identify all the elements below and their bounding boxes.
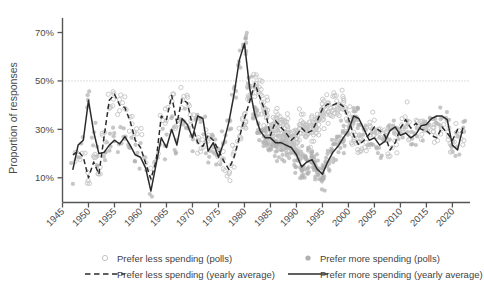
scatter-point	[204, 151, 208, 155]
scatter-point	[300, 144, 304, 148]
scatter-point	[336, 150, 340, 154]
scatter-point	[277, 155, 281, 159]
scatter-point	[338, 146, 342, 150]
scatter-point	[244, 34, 248, 38]
legend-label-less-polls: Prefer less spending (polls)	[117, 253, 232, 264]
scatter-point	[234, 96, 238, 100]
scatter-point	[91, 143, 95, 147]
scatter-point	[281, 153, 285, 157]
scatter-point	[198, 120, 202, 124]
scatter-point	[315, 152, 319, 156]
proportion-of-responses-chart: Proportion of responses 10%30%50%70% 194…	[0, 0, 484, 290]
scatter-point	[203, 115, 207, 119]
scatter-point	[330, 138, 334, 142]
scatter-point	[191, 149, 195, 153]
scatter-point	[133, 143, 137, 147]
scatter-point	[107, 149, 111, 153]
scatter-point	[377, 146, 381, 150]
legend-marker-more-polls	[305, 255, 310, 260]
scatter-point	[161, 127, 165, 131]
scatter-point	[306, 172, 310, 176]
scatter-point	[103, 158, 107, 162]
y-axis-title: Proportion of responses	[7, 62, 19, 173]
scatter-point	[313, 175, 317, 179]
y-tick-label: 50%	[35, 75, 55, 86]
scatter-point	[310, 154, 314, 158]
scatter-point	[321, 175, 325, 179]
scatter-point	[174, 150, 178, 154]
scatter-point	[169, 116, 173, 120]
scatter-point	[334, 158, 338, 162]
scatter-point	[401, 135, 405, 139]
scatter-point	[112, 134, 116, 138]
scatter-point	[282, 159, 286, 163]
scatter-point	[273, 154, 277, 158]
scatter-point	[87, 89, 91, 93]
scatter-point	[324, 156, 328, 160]
scatter-point	[387, 123, 391, 127]
scatter-point	[148, 192, 152, 196]
scatter-point	[163, 157, 167, 161]
legend-label-less-average: Prefer less spending (yearly average)	[117, 269, 275, 280]
scatter-point	[116, 150, 120, 154]
scatter-point	[90, 135, 94, 139]
scatter-point	[303, 176, 307, 180]
scatter-point	[294, 165, 298, 169]
y-tick-label: 30%	[35, 124, 55, 135]
scatter-point	[438, 105, 442, 109]
scatter-point	[263, 139, 267, 143]
scatter-point	[414, 143, 418, 147]
scatter-point	[108, 132, 112, 136]
scatter-point	[461, 120, 465, 124]
scatter-point	[306, 165, 310, 169]
scatter-point	[207, 155, 211, 159]
scatter-point	[293, 171, 297, 175]
scatter-point	[392, 119, 396, 123]
scatter-point	[335, 135, 339, 139]
scatter-point	[206, 160, 210, 164]
scatter-point	[453, 154, 457, 158]
scatter-point	[457, 153, 461, 157]
scatter-point	[251, 116, 255, 120]
scatter-point	[356, 106, 360, 110]
scatter-point	[356, 126, 360, 130]
scatter-point	[93, 121, 97, 125]
scatter-point	[220, 129, 224, 133]
scatter-point	[111, 126, 115, 130]
scatter-point	[445, 110, 449, 114]
scatter-point	[352, 109, 356, 113]
scatter-point	[257, 138, 261, 142]
scatter-point	[320, 187, 324, 191]
scatter-point	[71, 182, 75, 186]
scatter-point	[342, 151, 346, 155]
chart-figure: Proportion of responses 10%30%50%70% 194…	[0, 0, 484, 290]
scatter-point	[165, 132, 169, 136]
scatter-point	[275, 159, 279, 163]
scatter-point	[135, 151, 139, 155]
scatter-point	[86, 93, 90, 97]
scatter-point	[137, 167, 141, 171]
scatter-point	[339, 119, 343, 123]
scatter-point	[341, 131, 345, 135]
y-tick-label: 70%	[35, 27, 55, 38]
legend-label-more-average: Prefer more spending (yearly average)	[320, 269, 483, 280]
scatter-point	[133, 159, 137, 163]
scatter-point	[122, 126, 126, 130]
scatter-point	[287, 156, 291, 160]
y-tick-label: 10%	[35, 172, 55, 183]
legend-label-more-polls: Prefer more spending (polls)	[320, 253, 440, 264]
scatter-point	[376, 151, 380, 155]
scatter-point	[379, 156, 383, 160]
scatter-point	[262, 129, 266, 133]
